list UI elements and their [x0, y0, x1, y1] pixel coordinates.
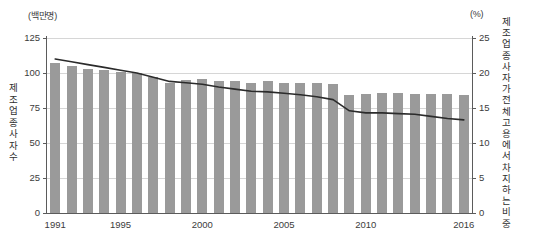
x-tick-label: 2010 [355, 219, 376, 230]
right-tick-label: 25 [479, 32, 490, 43]
right-tick-mark [473, 178, 476, 179]
left-axis-line [46, 36, 47, 214]
left-axis-unit-label: (백만명) [28, 9, 57, 22]
chart-figure: (백만명) (%) 제조업 종사자수 제조업 종사자가 전체 고용에서 차지하는… [0, 0, 533, 243]
right-tick-label: 0 [479, 207, 484, 218]
right-tick-label: 15 [479, 102, 490, 113]
left-tick-mark [43, 213, 46, 214]
right-tick-mark [473, 143, 476, 144]
left-axis-title: 제조업 종사자수 [6, 82, 20, 163]
bottom-axis-line [46, 213, 473, 214]
right-tick-label: 5 [479, 172, 484, 183]
x-tick-label: 2000 [192, 219, 213, 230]
left-tick-mark [43, 143, 46, 144]
x-tick-label: 2016 [453, 219, 474, 230]
left-tick-mark [43, 73, 46, 74]
left-tick-label: 25 [14, 172, 40, 183]
right-axis-title: 제조업 종사자가 전체 고용에서 차지하는 비중 [500, 16, 513, 229]
left-tick-label: 125 [14, 32, 40, 43]
plot-area: 0255075100125 0510152025 199119952000200… [47, 38, 472, 213]
left-tick-mark [43, 178, 46, 179]
x-tick-label: 2005 [273, 219, 294, 230]
left-tick-mark [43, 108, 46, 109]
left-tick-label: 0 [14, 207, 40, 218]
right-tick-label: 10 [479, 137, 490, 148]
right-axis-line [472, 36, 473, 214]
left-tick-label: 50 [14, 137, 40, 148]
right-tick-mark [473, 108, 476, 109]
left-tick-label: 100 [14, 67, 40, 78]
right-tick-label: 20 [479, 67, 490, 78]
left-tick-label: 75 [14, 102, 40, 113]
right-tick-mark [473, 213, 476, 214]
x-tick-label: 1991 [45, 219, 66, 230]
left-tick-mark [43, 38, 46, 39]
x-tick-label: 1995 [110, 219, 131, 230]
line-series [47, 32, 472, 217]
right-axis-unit-label: (%) [470, 9, 483, 19]
right-tick-mark [473, 73, 476, 74]
right-tick-mark [473, 38, 476, 39]
